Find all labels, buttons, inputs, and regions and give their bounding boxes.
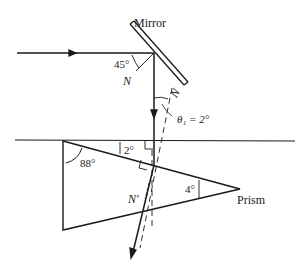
- optics-diagram: Mirror 45° N N θ₁ = 2° 2° 88° N′ 4° Pris…: [0, 0, 307, 264]
- horizontal-reference: [15, 140, 295, 141]
- prism-label: Prism: [237, 194, 265, 206]
- arrow-down-icon: [151, 110, 157, 118]
- arrow-down-icon: [130, 248, 136, 258]
- mirror-edge-1: [130, 24, 184, 85]
- mirror-normal: [136, 53, 154, 71]
- angle-45-label: 45°: [114, 59, 129, 70]
- prism: [63, 141, 240, 230]
- mirror-edge-2: [134, 21, 188, 82]
- normal-n1-label: N: [123, 75, 131, 87]
- angle-2-label: 2°: [124, 145, 134, 156]
- angle-88-label: 88°: [80, 158, 95, 169]
- normal-nprime-label: N′: [128, 193, 139, 205]
- angle-4-label: 4°: [185, 184, 195, 195]
- theta1-label: θ₁ = 2°: [177, 114, 209, 125]
- refracted-ray: [133, 165, 154, 252]
- mirror-label: Mirror: [134, 17, 166, 29]
- arrow-right-icon: [69, 50, 76, 56]
- diagram-canvas: [0, 0, 307, 264]
